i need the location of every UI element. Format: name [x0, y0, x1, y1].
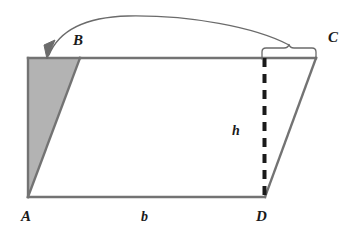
vertex-label-d: D [256, 209, 267, 224]
translation-arrowhead-icon [44, 40, 55, 59]
translation-arrow-curve [49, 16, 289, 55]
height-length-label: h [232, 124, 240, 138]
base-length-label: b [141, 210, 148, 224]
figure-canvas [0, 0, 360, 241]
parallelogram-figure: A B C D b h [0, 0, 360, 241]
vertex-label-b: B [73, 33, 83, 48]
vertex-label-c: C [328, 30, 338, 45]
vertex-label-a: A [21, 209, 31, 224]
